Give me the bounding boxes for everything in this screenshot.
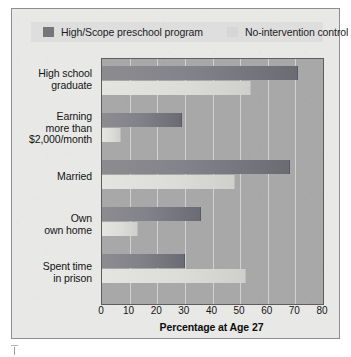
bar-group — [102, 66, 323, 95]
category-label-high-school: High school graduate — [38, 68, 92, 91]
category-label-prison: Spent time in prison — [43, 261, 92, 284]
bar — [102, 207, 201, 221]
bar — [102, 128, 121, 142]
bar — [102, 175, 235, 189]
bar — [102, 66, 298, 80]
bar-series-container — [102, 59, 323, 304]
x-tick-label-10: 10 — [123, 305, 134, 316]
legend-label-program: High/Scope preschool program — [61, 26, 203, 38]
scan-registration-mark-horizontal — [11, 345, 18, 346]
bar-group — [102, 207, 323, 236]
bar-group — [102, 254, 323, 283]
value-axis-ticks: 01020304050607080 — [101, 305, 322, 319]
dark-gray-swatch-icon — [43, 27, 54, 37]
x-tick-label-40: 40 — [206, 305, 217, 316]
legend-entry-program: High/Scope preschool program — [43, 26, 203, 38]
legend-entry-control: No-intervention control — [227, 26, 348, 38]
category-label-own-home: Own own home — [44, 213, 92, 236]
x-tick-label-50: 50 — [234, 305, 245, 316]
x-tick-label-70: 70 — [289, 305, 300, 316]
bar-group — [102, 113, 323, 142]
bar — [102, 160, 290, 174]
bar — [102, 113, 182, 127]
x-tick-label-20: 20 — [151, 305, 162, 316]
scan-registration-mark — [14, 347, 15, 355]
category-axis-labels: High school graduate Earning more than $… — [12, 58, 97, 303]
x-tick-label-0: 0 — [98, 305, 104, 316]
bar — [102, 254, 185, 268]
x-tick-label-80: 80 — [316, 305, 327, 316]
x-tick-label-60: 60 — [261, 305, 272, 316]
light-gray-swatch-icon — [227, 27, 238, 37]
bar — [102, 269, 246, 283]
chart-legend: High/Scope preschool program No-interven… — [31, 22, 323, 42]
category-label-earning: Earning more than $2,000/month — [29, 111, 92, 146]
figure-panel: High/Scope preschool program No-interven… — [11, 8, 340, 339]
bar — [102, 81, 251, 95]
bar-group — [102, 160, 323, 189]
bar — [102, 222, 138, 236]
legend-label-control: No-intervention control — [245, 26, 348, 38]
x-tick-label-30: 30 — [178, 305, 189, 316]
x-axis-title: Percentage at Age 27 — [101, 321, 322, 333]
category-label-married: Married — [57, 171, 92, 183]
plot-area — [101, 58, 324, 305]
